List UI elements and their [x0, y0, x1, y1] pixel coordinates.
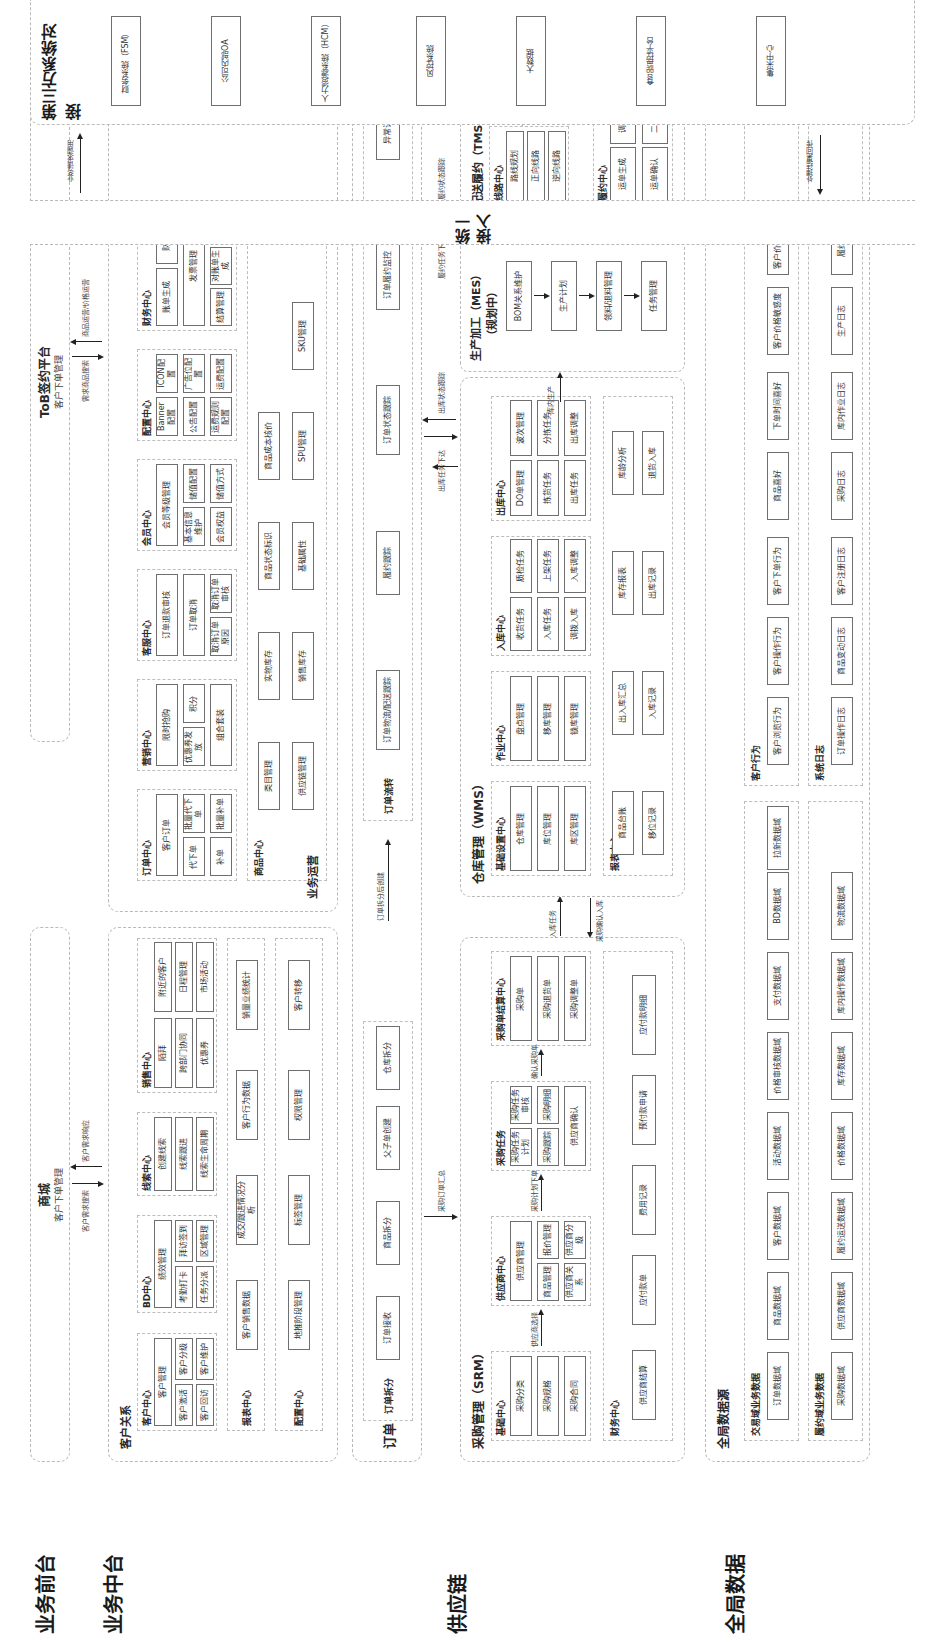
arrow-right — [560, 374, 561, 402]
mall-sub: 客户下单管理 — [52, 1168, 65, 1222]
trade-data-group: 交易域业务数据 订单数据域 商品数据域 客户数据域 活动数据域 价格审核数据域 … — [744, 801, 799, 1441]
arrow-left — [590, 898, 591, 936]
srm-title: 采购管理（SRM） — [469, 1347, 486, 1449]
third-party-panel: 第三方系统对接 财务系统（FSM） 公司内部OA 人力资源系统（HCM） 风控系… — [30, 0, 915, 125]
tob-title: ToB签约平台 — [35, 346, 52, 418]
customer-center-group: 客户中心 客户管理 客户激活 客户分级 客户回访 客户维护 — [137, 1333, 217, 1431]
member-center-group: 会员中心 会员等级管理 基本信息维护 储值配置 会员权益 储值方式 — [137, 459, 237, 551]
arrow-down — [820, 135, 821, 193]
wms-panel: 仓库管理（WMS） 基础设置中心 仓库管理 库位管理 库区管理 作业中心 盘点管… — [460, 377, 685, 897]
tms-route-center: 线路中心 路线规划 正向线路 逆向线路 — [489, 126, 569, 206]
arrow-up — [424, 419, 456, 420]
order-split-group: 订单拆分 订单接收 商品拆分 父子单创建 仓库拆分 — [363, 1021, 413, 1421]
box-customer-manage[interactable]: 客户管理 — [154, 1338, 172, 1426]
wms-title: 仓库管理（WMS） — [469, 778, 486, 884]
arrow-up — [72, 341, 102, 342]
cr-config-center-group: 配置中心 地推阶段管理 标签管理 权限管理 客户转移 — [275, 938, 323, 1431]
unified-access-title: 统一接入 — [452, 201, 494, 244]
arrow-right — [541, 1051, 542, 1076]
arrow-right — [541, 1311, 542, 1346]
architecture-diagram: 业务前台 业务中台 供应链 全局数据 商城 客户下单管理 ToB签约平台 客户下… — [0, 0, 945, 1642]
wms-base-center: 基础设置中心 仓库管理 库位管理 库区管理 — [491, 781, 591, 876]
tob-sub: 客户下单管理 — [52, 355, 65, 409]
customer-relation-panel: 客户关系 客户中心 客户管理 客户激活 客户分级 客户回访 客户维护 BD中心 … — [108, 927, 338, 1462]
srm-task-group: 采购任务 采购任务计划 采购任务审核 采购跟踪 采购明细 供应商确认 — [491, 1081, 591, 1171]
srm-supplier-center: 供应商中心 供应商管理 商品管理 报价管理 供应商关系 供应商分级 — [491, 1216, 591, 1306]
mall-panel[interactable]: 商城 客户下单管理 — [30, 927, 70, 1462]
mes-title: 生产加工（MES） — [467, 269, 483, 361]
srm-panel: 采购管理（SRM） 基础中心 采购分类 采购规格 采购合同 供应商选择 供应商中… — [460, 937, 685, 1462]
arrow-right — [560, 898, 561, 936]
goods-center-group: 商品中心 类目管理 供应链管理 实物库存 销售库存 商品状态标识 基础属性 商品… — [247, 241, 327, 881]
tob-panel[interactable]: ToB签约平台 客户下单管理 — [30, 22, 70, 742]
layer-label-front: 业务前台 — [30, 1514, 59, 1634]
customer-relation-title: 客户关系 — [117, 1405, 133, 1449]
wms-inbound-center: 入库中心 收货任务 质检任务 入库任务 上架任务 调拨入库 入库调整 — [491, 536, 591, 656]
order-center-group: 订单中心 客户订单 代下单 批量代下单 补单 批量补单 — [137, 789, 237, 881]
arrow-down — [579, 295, 593, 296]
unified-access-bar: 统一接入 — [30, 200, 915, 245]
third-party-food-monitor[interactable]: 食品监控平台 — [636, 16, 666, 106]
arrow-right — [388, 841, 389, 921]
report-center-group: 报表中心 客户销售数据 成交/跟进情况分析 客户行为数据 销量业绩统计 — [227, 938, 265, 1431]
logs-data-group: 系统日志 订单操作日志 商品变动日志 客户注册日志 采购日志 库内作业日志 生产… — [808, 41, 863, 786]
arrow-down — [72, 356, 102, 357]
flow-label: 商品运营/价格运营 — [80, 279, 90, 337]
ops-panel: 业务运营 订单中心 客户订单 代下单 批量代下单 补单 批量补单 营销中心 限时… — [108, 22, 338, 912]
srm-base-center: 基础中心 采购分类 采购规格 采购合同 — [491, 1351, 591, 1441]
third-party-oa[interactable]: 公司内部OA — [211, 16, 241, 106]
srm-finance-center: 财务中心 供应商结算 应付款单 费用记录 预付款申请 应付款明细 — [603, 951, 673, 1441]
third-party-procurement[interactable]: 集采中心 — [756, 16, 786, 106]
global-title: 全局数据源 — [714, 1389, 731, 1449]
ops-config-center-group: 配置中心 Banner配置 ICON配置 公告配置 广告位配置 运费规则配置 运… — [137, 349, 237, 441]
third-party-fsm[interactable]: 财务系统（FSM） — [111, 16, 141, 106]
wms-work-center: 作业中心 盘点管理 移库管理 锁库管理 — [491, 671, 591, 766]
order-flow-group: 订单流转 订单物流/配送跟踪 履约跟踪 订单状态跟踪 订单履约监控 异常订单处理 — [363, 61, 413, 821]
third-party-title: 第三方系统对接 — [39, 10, 69, 120]
arrow-down — [72, 1183, 102, 1184]
arrow-up — [80, 135, 81, 193]
arrow-up — [72, 1166, 102, 1167]
bd-center-group: BD中心 绩效管理 考勤打卡 拜访签到 任务分派 区域管理 — [137, 1215, 217, 1313]
third-party-risk[interactable]: 风控系统 — [416, 16, 446, 106]
mes-sub: （规划中） — [483, 286, 499, 341]
behavior-data-group: 客户行为 客户浏览行为 客户操作行为 客户下单行为 商品喜好 下单时间喜好 客户… — [744, 41, 799, 786]
layer-label-supply: 供应链 — [442, 1514, 471, 1634]
flow-label: 需求商品搜索 — [80, 360, 90, 402]
wms-outbound-center: 出库中心 DO单管理 波次管理 拣货任务 分拣任务 出库任务 出库调整 — [491, 396, 591, 521]
layer-label-middle: 业务中台 — [98, 1514, 127, 1634]
srm-payment-center: 采购单结算中心 采购单 采购退货单 采购调整单 — [491, 951, 591, 1046]
service-center-group: 客服中心 订单退款审核 订单取消 取消订单原因 取消订单审核 — [137, 569, 237, 661]
arrow-down — [624, 295, 638, 296]
layer-label-global: 全局数据 — [720, 1514, 749, 1634]
third-party-bigdata[interactable]: 大数据 — [516, 16, 546, 106]
arrow-down — [424, 436, 456, 437]
third-party-hcm[interactable]: 人力资源系统（HCM） — [311, 16, 341, 106]
lead-center-group: 线索中心 创建线索 线索跟进 线索生命周期 — [137, 1112, 217, 1196]
arrow-right — [541, 1176, 542, 1211]
arrow-down — [534, 295, 548, 296]
sales-center-group: 销售中心 陌拜 附近的客户 跨部门协同 日程管理 优惠券 市场活动 — [137, 938, 217, 1093]
wms-report-center: 报表中心 商品台账 移位记录 出入库汇总 入库记录 库存报表 出库记录 库龄分析… — [603, 396, 673, 876]
mall-title: 商城 — [35, 1183, 52, 1207]
flow-label: 客户需求响应 — [80, 1120, 90, 1162]
fulfil-data-group: 履约域业务数据 采购数据域 供应商数据域 履约运送数据域 价格数据域 库存数据域… — [808, 801, 863, 1441]
order-title: 订单 — [379, 1423, 398, 1449]
marketing-center-group: 营销中心 限时抢购 优惠券发放 积分 组合套装 — [137, 679, 237, 771]
flow-label: 客户需求搜索 — [80, 1190, 90, 1232]
arrow-down — [424, 1216, 456, 1217]
tms-title: 配送履约（TMS） — [469, 114, 485, 206]
arrow-up — [434, 466, 458, 467]
